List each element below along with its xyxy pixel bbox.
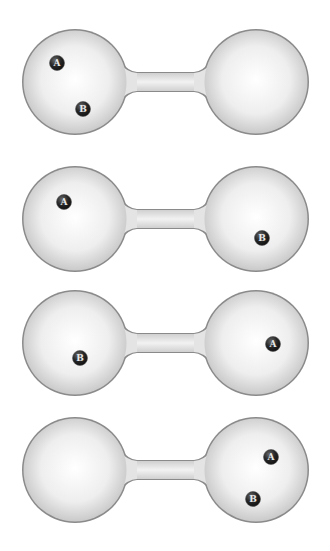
flask-diagram-4: AB <box>22 417 309 523</box>
particle-label: B <box>258 233 266 243</box>
particle-label: B <box>76 353 84 363</box>
particle-label: B <box>249 494 257 504</box>
particle-b: B <box>73 351 88 366</box>
particle-label: A <box>267 452 276 462</box>
particle-a: A <box>264 450 279 465</box>
particle-b: B <box>255 231 270 246</box>
two-bulb-diagrams: ABABBAAB <box>0 0 330 551</box>
particle-a: A <box>266 337 281 352</box>
particle-label: A <box>53 58 62 68</box>
particle-a: A <box>57 195 72 210</box>
flask-diagram-2: AB <box>22 166 309 272</box>
flask-diagram-1: AB <box>22 29 309 135</box>
flask-diagram-3: BA <box>22 290 309 396</box>
particle-b: B <box>246 492 261 507</box>
particle-a: A <box>50 56 65 71</box>
particle-label: A <box>269 339 278 349</box>
particle-b: B <box>76 102 91 117</box>
particle-label: A <box>60 197 69 207</box>
particle-label: B <box>79 104 87 114</box>
